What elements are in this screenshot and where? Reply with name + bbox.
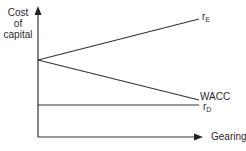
re-label-sub: E [205, 16, 210, 23]
rd-label-sub: D [206, 106, 211, 113]
y-label-line-3: capital [2, 29, 34, 40]
re-line [38, 19, 199, 60]
rd-label: rD [203, 101, 211, 113]
re-label: rE [202, 11, 210, 23]
y-label-line-1: Cost [2, 7, 34, 18]
y-axis-label: Cost of capital [2, 7, 34, 40]
x-axis-arrowhead-icon [194, 134, 203, 141]
y-label-line-2: of [2, 18, 34, 29]
wacc-line [38, 60, 199, 100]
y-axis-arrowhead-icon [35, 6, 42, 15]
x-axis-label: Gearing [211, 131, 246, 142]
